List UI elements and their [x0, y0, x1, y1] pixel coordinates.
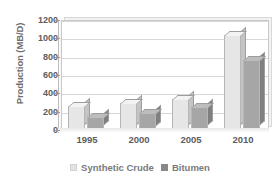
bar-2010-synthetic[interactable] [224, 35, 241, 129]
bar-face [139, 113, 156, 130]
y-tick-label: 800 [24, 52, 58, 61]
y-tick-mark [55, 75, 60, 76]
bar-group-2005 [166, 21, 218, 129]
y-tick-label: 400 [24, 89, 58, 98]
bar-2010-bitumen[interactable] [243, 60, 260, 129]
legend-label: Bitumen [172, 162, 210, 173]
bar-2005-bitumen[interactable] [191, 107, 208, 129]
plot-area [61, 20, 269, 130]
y-tick-mark [55, 57, 60, 58]
bar-side [156, 104, 161, 125]
bar-side [260, 52, 265, 125]
bar-face [68, 106, 85, 129]
y-axis-tick-labels: 020040060080010001200 [24, 15, 58, 127]
legend-item-bitumen[interactable]: Bitumen [161, 162, 210, 173]
legend-label: Synthetic Crude [81, 162, 154, 173]
y-tick-mark [55, 20, 60, 21]
y-tick-label: 1200 [24, 16, 58, 25]
legend-item-synthetic[interactable]: Synthetic Crude [70, 162, 154, 173]
bar-face [224, 35, 241, 129]
y-tick-label: 1000 [24, 34, 58, 43]
x-tick-label-2000: 2000 [119, 134, 159, 145]
x-axis-tick-labels: 1995200020052010 [61, 134, 269, 150]
bar-2000-synthetic[interactable] [120, 103, 137, 129]
y-tick-label: 600 [24, 71, 58, 80]
chart-legend: Synthetic CrudeBitumen [0, 162, 280, 173]
bar-2000-bitumen[interactable] [139, 113, 156, 130]
bar-group-1995 [62, 21, 114, 129]
y-tick-mark [55, 130, 60, 131]
y-tick-mark [55, 112, 60, 113]
bar-face [243, 60, 260, 129]
legend-swatch-icon [70, 164, 77, 171]
y-tick-label: 200 [24, 107, 58, 116]
y-tick-mark [55, 93, 60, 94]
x-tick-label-1995: 1995 [67, 134, 107, 145]
y-tick-label: 0 [24, 126, 58, 135]
bar-group-2010 [218, 21, 270, 129]
bar-face [172, 99, 189, 129]
bar-2005-synthetic[interactable] [172, 99, 189, 129]
x-tick-label-2005: 2005 [171, 134, 211, 145]
x-tick-label-2010: 2010 [223, 134, 263, 145]
bar-face [120, 103, 137, 129]
y-axis-title: Production (MB/D) [14, 9, 25, 119]
production-bar-chart: Production (MB/D) 020040060080010001200 … [0, 0, 280, 184]
legend-swatch-icon [161, 164, 168, 171]
axis-floor [58, 128, 269, 132]
bar-1995-synthetic[interactable] [68, 106, 85, 129]
bar-face [191, 107, 208, 129]
y-tick-mark [55, 38, 60, 39]
bar-group-2000 [114, 21, 166, 129]
